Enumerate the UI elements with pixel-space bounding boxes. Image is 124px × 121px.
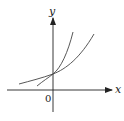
x-axis-label: x (115, 83, 122, 96)
coordinate-diagram: y x 0 (0, 0, 124, 121)
origin-label: 0 (45, 93, 51, 104)
y-axis-label: y (48, 5, 56, 18)
gentler-curve (19, 34, 94, 84)
